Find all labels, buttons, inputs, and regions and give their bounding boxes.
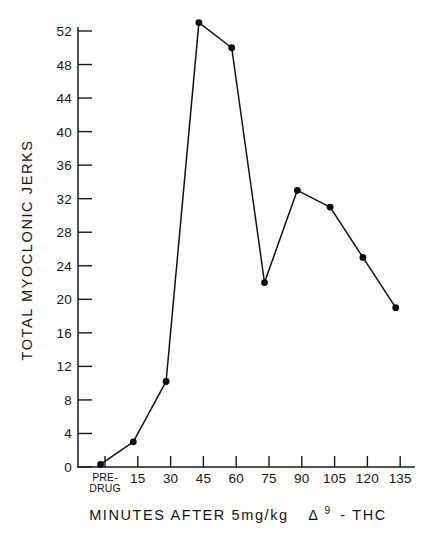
y-tick-label: 4 — [64, 426, 72, 441]
data-point-marker — [196, 19, 203, 26]
y-tick-label: 44 — [57, 91, 73, 106]
y-tick-label: 20 — [57, 292, 72, 307]
y-tick-label: 8 — [64, 393, 72, 408]
x-axis-title: MINUTES AFTER 5mg/kg Δ 9 - THC — [89, 501, 387, 523]
x-tick-label: 120 — [356, 471, 379, 486]
y-tick-label: 36 — [57, 158, 72, 173]
x-axis-title-prefix: MINUTES AFTER 5mg/kg — [89, 507, 289, 523]
data-point-marker — [97, 461, 104, 468]
x-tick-label-line2: DRUG — [89, 482, 120, 494]
y-tick-label: 12 — [57, 359, 72, 374]
line-chart-canvas: 0481216202428323640444852 PRE-DRUG153045… — [0, 0, 432, 544]
y-tick-label: 40 — [57, 125, 72, 140]
y-tick-label: 0 — [64, 460, 72, 475]
data-point-marker — [294, 187, 301, 194]
data-point-marker — [228, 44, 235, 51]
data-point-marker — [261, 279, 268, 286]
y-tick-label: 16 — [57, 326, 72, 341]
x-tick-label: 90 — [294, 471, 309, 486]
x-axis-title-superscript: 9 — [325, 505, 331, 516]
axes-group — [78, 28, 414, 467]
y-tick-label: 32 — [57, 192, 72, 207]
x-axis-ticks: PRE-DRUG153045607590105120135 — [89, 456, 411, 494]
x-tick-label: 135 — [389, 471, 412, 486]
data-point-marker — [130, 438, 137, 445]
x-tick-label: 60 — [228, 471, 243, 486]
x-axis-title-delta-symbol: Δ — [308, 507, 319, 523]
chart-figure: 0481216202428323640444852 PRE-DRUG153045… — [0, 0, 432, 544]
series-line-total-myoclonic-jerks — [101, 23, 396, 465]
y-axis-ticks: 0481216202428323640444852 — [57, 24, 92, 475]
x-tick-label: 15 — [130, 471, 145, 486]
x-tick-label: 45 — [196, 471, 211, 486]
x-tick-label: 30 — [163, 471, 178, 486]
x-tick-label: 75 — [261, 471, 276, 486]
svg-text:MINUTES AFTER 5mg/kg: MINUTES AFTER 5mg/kg Δ 9 - THC — [89, 501, 387, 523]
y-tick-label: 24 — [57, 259, 73, 274]
data-point-marker — [392, 304, 399, 311]
data-point-marker — [327, 204, 334, 211]
x-axis-title-suffix: - THC — [340, 507, 387, 523]
y-tick-label: 52 — [57, 24, 72, 39]
data-point-marker — [360, 254, 367, 261]
data-point-marker — [163, 378, 170, 385]
x-tick-label: 105 — [323, 471, 346, 486]
y-axis-title: TOTAL MYOCLONIC JERKS — [19, 139, 35, 360]
y-tick-label: 48 — [57, 58, 72, 73]
y-tick-label: 28 — [57, 225, 72, 240]
data-series-group — [97, 19, 399, 468]
